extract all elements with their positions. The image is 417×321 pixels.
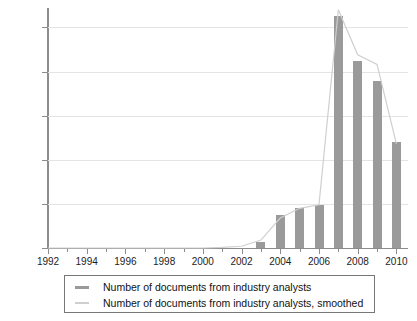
bar bbox=[315, 205, 324, 248]
x-tick-mark-minor bbox=[377, 249, 378, 252]
x-tick-mark-minor bbox=[261, 249, 262, 252]
legend-label-documents-smoothed: Number of documents from industry analys… bbox=[103, 297, 363, 309]
x-tick-label: 2000 bbox=[192, 256, 214, 267]
bar bbox=[295, 208, 304, 248]
x-tick-mark bbox=[87, 249, 88, 254]
x-tick-mark bbox=[396, 249, 397, 254]
x-tick-mark-minor bbox=[184, 249, 185, 252]
x-tick-label: 1992 bbox=[37, 256, 59, 267]
legend-label-documents: Number of documents from industry analys… bbox=[103, 281, 311, 293]
x-tick-label: 2008 bbox=[347, 256, 369, 267]
x-tick-label: 1998 bbox=[153, 256, 175, 267]
legend-item-documents: Number of documents from industry analys… bbox=[65, 279, 311, 295]
x-tick-mark-minor bbox=[338, 249, 339, 252]
bar bbox=[392, 142, 401, 248]
x-axis-line bbox=[47, 248, 408, 249]
bar bbox=[256, 242, 265, 248]
gridline bbox=[48, 27, 408, 28]
x-tick-mark bbox=[242, 249, 243, 254]
x-tick-label: 2004 bbox=[269, 256, 291, 267]
x-tick-label: 2002 bbox=[230, 256, 252, 267]
chart-container: 0500010000150002000025000 19921994199619… bbox=[0, 0, 417, 321]
x-tick-mark bbox=[319, 249, 320, 254]
x-tick-mark-minor bbox=[222, 249, 223, 252]
x-tick-mark-minor bbox=[300, 249, 301, 252]
x-tick-mark bbox=[203, 249, 204, 254]
x-tick-mark bbox=[48, 249, 49, 254]
x-tick-mark bbox=[358, 249, 359, 254]
x-tick-label: 1994 bbox=[76, 256, 98, 267]
x-tick-mark-minor bbox=[106, 249, 107, 252]
x-tick-mark bbox=[280, 249, 281, 254]
x-tick-label: 2006 bbox=[308, 256, 330, 267]
x-tick-label: 1996 bbox=[114, 256, 136, 267]
x-tick-mark-minor bbox=[145, 249, 146, 252]
bar-swatch-icon bbox=[75, 286, 89, 289]
x-tick-label: 2010 bbox=[385, 256, 407, 267]
bar bbox=[353, 61, 362, 248]
bar bbox=[276, 215, 285, 248]
x-tick-mark bbox=[164, 249, 165, 254]
x-tick-mark-minor bbox=[67, 249, 68, 252]
chart-legend: Number of documents from industry analys… bbox=[64, 275, 375, 313]
line-swatch-icon bbox=[75, 302, 89, 304]
plot-area bbox=[48, 8, 408, 248]
bar bbox=[373, 81, 382, 248]
bar bbox=[334, 16, 343, 248]
x-tick-mark bbox=[125, 249, 126, 254]
legend-item-documents-smoothed: Number of documents from industry analys… bbox=[65, 295, 363, 311]
